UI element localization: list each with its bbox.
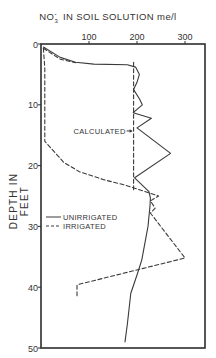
x-tick-label: 300 bbox=[177, 32, 192, 42]
series-irrigated bbox=[43, 48, 185, 296]
legend-label-irrigated: IRRIGATED bbox=[63, 222, 106, 231]
x-tick-label: 200 bbox=[129, 32, 144, 42]
legend-label-unirrigated: UNIRRIGATED bbox=[63, 213, 118, 222]
arrowhead-icon bbox=[130, 129, 133, 133]
axes: 10020030001020304050 bbox=[28, 32, 205, 354]
legend: UNIRRIGATEDIRRIGATED bbox=[46, 213, 118, 231]
y-tick-label: 30 bbox=[28, 222, 38, 232]
y-tick-label: 20 bbox=[28, 161, 38, 171]
annotation-calculated: CALCULATED bbox=[74, 127, 126, 136]
y-tick-label: 10 bbox=[28, 100, 38, 110]
plot-frame bbox=[41, 44, 205, 348]
series-unirrigated bbox=[43, 47, 170, 342]
y-tick-label: 40 bbox=[28, 283, 38, 293]
y-tick-label: 50 bbox=[28, 344, 38, 354]
y-tick-label: 0 bbox=[33, 40, 38, 50]
series-lines bbox=[43, 47, 185, 342]
annotations: CALCULATED bbox=[74, 127, 133, 136]
x-tick-label: 100 bbox=[81, 32, 96, 42]
chart-plot: 10020030001020304050 UNIRRIGATEDIRRIGATE… bbox=[0, 0, 216, 358]
